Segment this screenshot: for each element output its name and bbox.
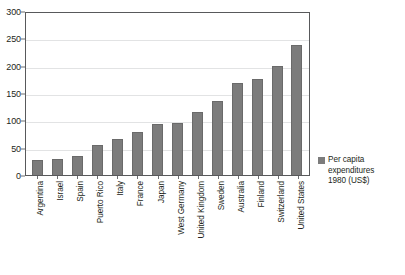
bar-slot — [167, 13, 187, 176]
x-tick-mark — [198, 176, 199, 179]
x-tick-mark — [97, 176, 98, 179]
x-tick-slot: United States — [288, 177, 308, 273]
x-tick-mark — [238, 176, 239, 179]
bar — [112, 139, 123, 176]
x-tick-mark — [137, 176, 138, 179]
axis-baseline — [25, 175, 309, 176]
bar — [252, 79, 263, 176]
bar-slot — [207, 13, 227, 176]
y-tick-label: 150 — [6, 90, 21, 99]
x-tick-label: Japan — [158, 181, 166, 203]
x-tick-slot: Spain — [67, 177, 87, 273]
x-tick-mark — [77, 176, 78, 179]
x-tick-slot: Japan — [147, 177, 167, 273]
x-tick-mark — [218, 176, 219, 179]
bar — [132, 132, 143, 176]
x-tick-label: West Germany — [178, 181, 186, 235]
x-tick-slot: Italy — [107, 177, 127, 273]
legend-label-line: expenditures — [328, 166, 374, 177]
plot-area — [25, 12, 310, 176]
x-tick-slot: West Germany — [168, 177, 188, 273]
x-tick-slot: France — [127, 177, 147, 273]
x-tick-slot: Argentina — [27, 177, 47, 273]
y-tick-label: 300 — [6, 8, 21, 17]
bar — [92, 145, 103, 176]
x-tick-label: United States — [298, 181, 306, 230]
x-tick-label: Spain — [77, 181, 85, 202]
legend-label-line: 1980 (US$) — [328, 176, 374, 187]
x-tick-slot: Switzerland — [268, 177, 288, 273]
bar — [152, 124, 163, 176]
x-tick-label: Australia — [238, 181, 246, 212]
x-tick-mark — [57, 176, 58, 179]
x-tick-slot: Israel — [47, 177, 67, 273]
x-tick-slot: Sweden — [208, 177, 228, 273]
x-tick-label: Switzerland — [278, 181, 286, 223]
bar-slot — [148, 13, 168, 176]
bar-group — [26, 13, 309, 176]
bar-slot — [247, 13, 267, 176]
x-tick-slot: United Kingdom — [188, 177, 208, 273]
bar — [232, 83, 243, 176]
bar-slot — [128, 13, 148, 176]
x-tick-label: Israel — [57, 181, 65, 201]
y-tick-label: 200 — [6, 62, 21, 71]
y-tick-label: 250 — [6, 35, 21, 44]
bar-chart: 050100150200250300 ArgentinaIsraelSpainP… — [0, 0, 405, 275]
bar-slot — [48, 13, 68, 176]
x-tick-slot: Australia — [228, 177, 248, 273]
y-tick-label: 100 — [6, 117, 21, 126]
bar — [212, 101, 223, 176]
y-tick-label: 50 — [11, 144, 21, 153]
bar-slot — [287, 13, 307, 176]
x-tick-label: Finland — [258, 181, 266, 208]
x-tick-label: Argentina — [37, 181, 45, 216]
x-tick-mark — [158, 176, 159, 179]
bar-slot — [227, 13, 247, 176]
x-tick-slot: Finland — [248, 177, 268, 273]
bar — [291, 45, 302, 176]
x-axis: ArgentinaIsraelSpainPuerto RicoItalyFran… — [25, 177, 310, 273]
x-tick-mark — [298, 176, 299, 179]
bar-slot — [68, 13, 88, 176]
bar-slot — [187, 13, 207, 176]
x-tick-mark — [37, 176, 38, 179]
bar — [52, 159, 63, 176]
x-tick-label: Italy — [117, 181, 125, 196]
bar — [192, 112, 203, 176]
x-tick-mark — [258, 176, 259, 179]
x-tick-label: France — [137, 181, 145, 206]
bar-slot — [267, 13, 287, 176]
bar-slot — [88, 13, 108, 176]
x-tick-mark — [117, 176, 118, 179]
bar-slot — [28, 13, 48, 176]
legend-label-line: Per capita — [328, 155, 374, 166]
x-tick-label: United Kingdom — [198, 181, 206, 239]
bar-slot — [108, 13, 128, 176]
bar — [72, 156, 83, 176]
legend-label: Per capitaexpenditures1980 (US$) — [328, 155, 374, 187]
bar — [272, 66, 283, 176]
x-tick-slot: Puerto Rico — [87, 177, 107, 273]
bar — [32, 160, 43, 176]
x-tick-label: Puerto Rico — [97, 181, 105, 223]
legend: Per capitaexpenditures1980 (US$) — [318, 155, 403, 187]
x-tick-label: Sweden — [218, 181, 226, 210]
x-tick-mark — [178, 176, 179, 179]
legend-swatch-icon — [318, 157, 325, 164]
y-axis: 050100150200250300 — [0, 0, 24, 275]
x-tick-mark — [278, 176, 279, 179]
bar — [172, 123, 183, 176]
